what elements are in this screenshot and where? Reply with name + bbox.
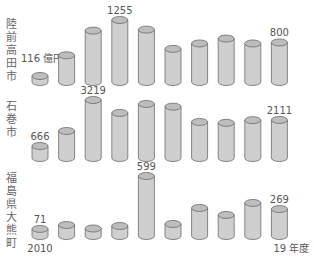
value-label: 2111	[267, 105, 292, 116]
cylinder-bar	[32, 143, 48, 162]
cylinder-bar	[271, 206, 287, 240]
cylinder-bar	[85, 97, 101, 162]
value-label: 800	[270, 27, 289, 38]
cylinder-chart: 116 億円12558006663219211171599269201019 年…	[0, 0, 314, 262]
cylinder-bar	[32, 225, 48, 239]
value-label: 116 億円	[21, 52, 63, 64]
value-label: 666	[30, 131, 49, 142]
cylinder-bar	[59, 221, 75, 239]
cylinder-bar	[112, 17, 128, 86]
cylinder-bar	[271, 39, 287, 86]
cylinder-bar	[245, 117, 261, 162]
cylinder-bar	[245, 40, 261, 86]
cylinder-bar	[218, 119, 234, 161]
cylinder-bar	[192, 204, 208, 239]
value-label: 1255	[107, 5, 132, 16]
cylinder-bar	[138, 100, 154, 161]
cylinder-bar	[165, 45, 181, 85]
value-label: 269	[270, 194, 289, 205]
cylinder-bar	[218, 211, 234, 239]
cylinder-bar	[59, 52, 75, 86]
cylinder-bar	[271, 116, 287, 161]
cylinder-bar	[192, 118, 208, 161]
cylinder-bar	[32, 73, 48, 86]
cylinder-bar	[138, 173, 154, 240]
cylinder-bar	[245, 199, 261, 239]
x-tick-last: 19 年度	[273, 242, 309, 254]
cylinder-bar	[165, 220, 181, 239]
value-label: 3219	[80, 85, 105, 96]
x-tick-first: 2010	[27, 243, 52, 254]
cylinder-bar	[112, 109, 128, 161]
cylinder-bar	[218, 35, 234, 85]
cylinder-bar	[165, 103, 181, 161]
cylinder-bar	[85, 225, 101, 240]
cylinder-bar	[192, 40, 208, 86]
cylinder-bar	[138, 26, 154, 85]
value-label: 71	[34, 214, 47, 225]
cylinder-bar	[112, 222, 128, 239]
value-label: 599	[137, 161, 156, 172]
cylinder-bar	[59, 127, 75, 161]
cylinder-bar	[85, 27, 101, 85]
